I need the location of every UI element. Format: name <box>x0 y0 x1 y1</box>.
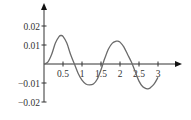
x-axis-arrow-icon <box>175 61 182 67</box>
y-tick-label: −0.01 <box>18 79 40 89</box>
axes <box>41 3 182 102</box>
y-tick-label: 0.02 <box>23 22 40 32</box>
y-tick-label: −0.02 <box>18 98 40 108</box>
y-axis-arrow-icon <box>41 3 47 10</box>
x-tick-label: 0.5 <box>57 69 69 79</box>
line-chart: 0.511.522.530.020.01−0.01−0.02 <box>0 0 191 120</box>
x-tick-label: 2 <box>118 69 123 79</box>
y-tick-label: 0.01 <box>23 41 40 51</box>
